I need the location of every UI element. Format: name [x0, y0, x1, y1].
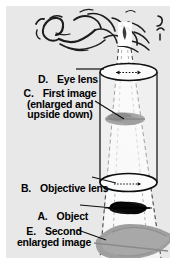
label-c-line3: upside down): [14, 109, 106, 120]
label-d-letter: D.: [38, 73, 48, 85]
label-b-letter: B.: [21, 182, 31, 194]
label-c-first-image: C.First image (enlarged and upside down): [14, 88, 106, 120]
label-a-text: Object: [57, 210, 88, 222]
first-image-feather: [105, 113, 145, 126]
label-e-line2: enlarged image: [8, 237, 100, 248]
label-a-letter: A.: [37, 210, 47, 222]
figure-root: D.Eye lens C.First image (enlarged and u…: [0, 0, 177, 270]
microscope-barrel: [100, 72, 157, 183]
label-d-text: Eye lens: [57, 73, 98, 85]
label-b-text: Objective lens: [40, 182, 108, 194]
observer-sketch: [36, 9, 164, 52]
objective-lens: [100, 174, 157, 192]
label-e-second-image: E.Second enlarged image: [8, 226, 100, 247]
eye-lens: [100, 64, 157, 81]
